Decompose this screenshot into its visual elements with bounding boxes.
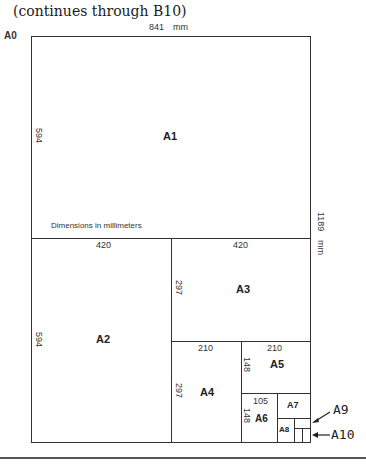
caption: (continues through B10) (13, 3, 187, 19)
a6-height: 148 (242, 408, 252, 423)
side-dimension: 1189 (316, 212, 326, 231)
top-dimension: 841 (149, 22, 164, 32)
a5-width: 210 (267, 343, 282, 353)
a4-height: 297 (174, 383, 184, 398)
a3-width: 420 (233, 240, 248, 250)
a5-label: A5 (270, 358, 284, 370)
side-unit: mm (316, 240, 326, 255)
a3-label: A3 (236, 283, 250, 295)
a2-width: 420 (96, 240, 111, 250)
a2-label: A2 (96, 333, 110, 345)
a0-label: A0 (4, 30, 17, 41)
a10-callout: A10 (331, 427, 354, 442)
a9-arrow-icon (310, 410, 332, 426)
a4-label: A4 (200, 386, 214, 398)
a9-callout: A9 (333, 402, 349, 417)
a1-label: A1 (163, 130, 177, 142)
a10-divider (302, 428, 303, 443)
a4-width: 210 (198, 343, 213, 353)
a1-height: 594 (34, 128, 44, 143)
a2-height: 594 (34, 332, 44, 347)
a3-height: 297 (174, 280, 184, 295)
a10-arrow-icon (310, 430, 332, 440)
a7-label: A7 (287, 400, 299, 410)
a6-label: A6 (255, 413, 268, 424)
top-unit: mm (173, 22, 188, 32)
dimensions-note: Dimensions in millimeters (51, 221, 142, 230)
a5-height: 148 (242, 357, 252, 372)
a6-width: 105 (253, 396, 268, 406)
a8-label: A8 (279, 425, 289, 434)
bottom-rule (0, 457, 366, 459)
